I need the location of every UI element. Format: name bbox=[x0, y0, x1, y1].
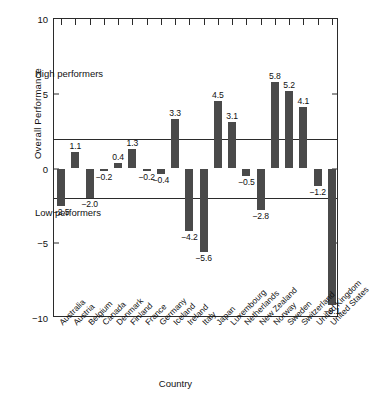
bar[interactable] bbox=[114, 163, 122, 169]
bar-value-label: −2.8 bbox=[252, 211, 269, 221]
bar[interactable] bbox=[328, 169, 336, 305]
bar[interactable] bbox=[228, 122, 236, 168]
bar-value-label: 4.1 bbox=[297, 96, 309, 106]
y-axis-tick-label: −10 bbox=[32, 313, 54, 324]
bar-value-label: −5.6 bbox=[195, 253, 212, 263]
y-axis-tick-mark bbox=[332, 93, 337, 94]
bar[interactable] bbox=[185, 169, 193, 232]
y-axis-tick-label: 5 bbox=[43, 88, 54, 99]
top-axis-tick-mark bbox=[61, 19, 62, 25]
top-axis-tick-mark bbox=[318, 19, 319, 25]
bar[interactable] bbox=[242, 169, 250, 176]
bar[interactable] bbox=[57, 169, 65, 206]
bar-value-label: 5.2 bbox=[283, 80, 295, 90]
bar[interactable] bbox=[71, 152, 79, 168]
y-axis-tick-mark bbox=[54, 93, 59, 94]
top-axis-tick-mark bbox=[132, 19, 133, 25]
top-axis-tick-mark bbox=[204, 19, 205, 25]
top-axis-tick-mark bbox=[104, 19, 105, 25]
bar-value-label: −0.5 bbox=[238, 177, 255, 187]
y-axis-tick-label: 0 bbox=[43, 163, 54, 174]
bar[interactable] bbox=[285, 91, 293, 169]
bar-value-label: −1.2 bbox=[309, 187, 326, 197]
top-axis-tick-mark bbox=[332, 19, 333, 25]
plot-area: 1050−5−10−2.51.1−2.0−0.20.41.3−0.2−0.43.… bbox=[53, 18, 338, 317]
x-axis-title: Country bbox=[0, 378, 351, 389]
bar[interactable] bbox=[314, 169, 322, 187]
top-axis-tick-mark bbox=[118, 19, 119, 25]
bar[interactable] bbox=[100, 169, 108, 172]
y-axis-tick-mark bbox=[54, 243, 59, 244]
bar-value-label: 0.4 bbox=[112, 152, 124, 162]
top-axis-tick-mark bbox=[246, 19, 247, 25]
bar-value-label: −0.4 bbox=[152, 175, 169, 185]
annotation-high-performers: High performers bbox=[35, 68, 103, 79]
bar[interactable] bbox=[86, 169, 94, 199]
bar-value-label: 1.1 bbox=[69, 141, 81, 151]
y-axis-title: Overall Performance bbox=[32, 34, 43, 194]
y-axis-tick-label: −5 bbox=[37, 238, 54, 249]
top-axis-tick-mark bbox=[175, 19, 176, 25]
bar[interactable] bbox=[171, 119, 179, 168]
bar[interactable] bbox=[128, 149, 136, 168]
bar-value-label: 3.1 bbox=[226, 111, 238, 121]
top-axis-tick-mark bbox=[147, 19, 148, 25]
bar[interactable] bbox=[299, 107, 307, 168]
bar[interactable] bbox=[271, 82, 279, 169]
top-axis-tick-mark bbox=[289, 19, 290, 25]
bar[interactable] bbox=[143, 169, 151, 172]
bar-value-label: −4.2 bbox=[181, 232, 198, 242]
bar[interactable] bbox=[200, 169, 208, 253]
bar-value-label: −0.2 bbox=[95, 172, 112, 182]
bar-value-label: 4.5 bbox=[212, 90, 224, 100]
bar[interactable] bbox=[257, 169, 265, 211]
top-axis-tick-mark bbox=[303, 19, 304, 25]
top-axis-tick-mark bbox=[189, 19, 190, 25]
top-axis-tick-mark bbox=[75, 19, 76, 25]
top-axis-tick-mark bbox=[90, 19, 91, 25]
top-axis-tick-mark bbox=[232, 19, 233, 25]
top-axis-tick-mark bbox=[275, 19, 276, 25]
top-axis-tick-mark bbox=[261, 19, 262, 25]
annotation-low-performers: Low performers bbox=[35, 207, 101, 218]
bar-value-label: 5.8 bbox=[269, 71, 281, 81]
bar[interactable] bbox=[214, 101, 222, 168]
bar-value-label: 3.3 bbox=[169, 108, 181, 118]
bar-value-label: 1.3 bbox=[126, 138, 138, 148]
top-axis-tick-mark bbox=[218, 19, 219, 25]
top-axis-tick-mark bbox=[161, 19, 162, 25]
y-axis-tick-label: 10 bbox=[37, 14, 54, 25]
reference-line bbox=[54, 139, 337, 140]
bar[interactable] bbox=[157, 169, 165, 175]
